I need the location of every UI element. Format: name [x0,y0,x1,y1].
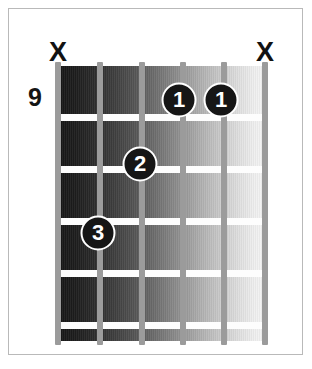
mute-marker-string-1: X [49,39,67,66]
string-line-6 [262,62,268,345]
fret-line-5 [56,322,267,329]
fret-line-2 [56,166,267,173]
chord-diagram-canvas: X X 9 1 1 2 3 [0,0,312,369]
finger-dot-label: 3 [92,222,104,244]
finger-dot-string-4-fret-1: 1 [162,83,197,118]
finger-dot-string-5-fret-1: 1 [204,83,239,118]
string-line-1 [55,62,61,345]
finger-dot-string-3-fret-2: 2 [123,147,158,182]
fret-line-4 [56,270,267,277]
finger-dot-label: 1 [215,89,227,111]
mute-marker-string-6: X [256,39,274,66]
finger-dot-string-2-fret-3: 3 [81,216,116,251]
fret-line-1 [56,114,267,121]
finger-dot-label: 2 [134,153,146,175]
finger-dot-label: 1 [173,89,185,111]
string-line-3 [139,62,145,345]
fret-position-number: 9 [28,85,42,110]
string-line-2 [97,62,103,345]
